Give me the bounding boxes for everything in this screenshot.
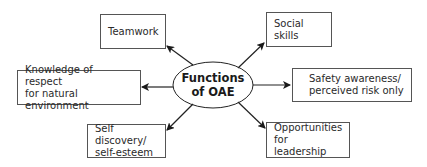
- node-label-line2: for leadership: [274, 134, 342, 158]
- node-label-line1: Safety awareness/: [309, 73, 401, 85]
- node-safety-awareness: Safety awareness/ perceived risk only: [292, 68, 412, 102]
- node-label: Social skills: [274, 18, 324, 42]
- node-label-line2: perceived risk only: [309, 85, 404, 97]
- node-teamwork: Teamwork: [100, 14, 166, 49]
- node-label-line1: Knowledge of respect: [25, 64, 133, 88]
- node-label-line1: Self discovery/: [95, 123, 158, 147]
- node-opportunities-leadership: Opportunities for leadership: [266, 122, 350, 158]
- node-label-line2: for natural environment: [25, 88, 133, 112]
- node-label-line2: self-esteem: [95, 147, 153, 159]
- node-knowledge-respect: Knowledge of respect for natural environ…: [17, 70, 141, 105]
- node-label-line1: Opportunities: [274, 122, 342, 134]
- node-label: Teamwork: [108, 26, 159, 38]
- node-self-discovery: Self discovery/ self-esteem: [87, 124, 166, 158]
- node-social-skills: Social skills: [266, 12, 332, 47]
- center-label: Functions of OAE: [173, 62, 253, 108]
- center-label-line1: Functions: [182, 71, 245, 85]
- center-label-line2: of OAE: [191, 85, 234, 99]
